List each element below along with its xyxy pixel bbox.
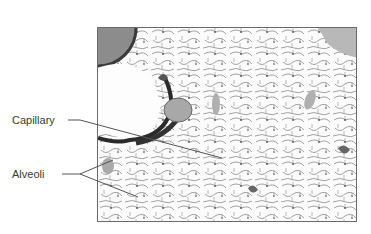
alveoli-leader-line	[62, 160, 138, 197]
leader-lines	[0, 0, 371, 234]
capillary-leader-line	[68, 120, 222, 158]
